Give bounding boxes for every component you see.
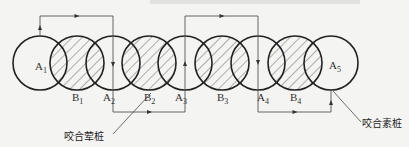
arrow-up-icon bbox=[183, 61, 187, 66]
pile-b3 bbox=[195, 36, 249, 90]
label-reinforced-pile: 咬合荤桩 bbox=[64, 130, 104, 142]
label-a1: A1 bbox=[35, 60, 47, 75]
arrow-up-icon bbox=[38, 25, 42, 30]
arrow-up-icon bbox=[329, 100, 333, 105]
leader-line-plain bbox=[333, 91, 361, 122]
label-b4: B4 bbox=[290, 91, 301, 106]
label-plain-pile: 咬合素桩 bbox=[362, 117, 402, 129]
pile-b1 bbox=[50, 36, 104, 90]
label-b3: B3 bbox=[217, 91, 228, 106]
arrow-right-icon bbox=[75, 14, 80, 18]
arrow-down-icon bbox=[111, 62, 115, 67]
pile-b4 bbox=[268, 36, 322, 90]
arrow-right-icon bbox=[293, 110, 298, 114]
arrow-down-icon bbox=[256, 60, 260, 65]
pile-b2 bbox=[122, 36, 176, 90]
label-a4: A4 bbox=[257, 91, 269, 106]
secondary-piles-group bbox=[50, 36, 322, 90]
arrow-right-icon bbox=[147, 110, 152, 114]
leader-line-reinforced bbox=[113, 93, 151, 134]
arrow-right-icon bbox=[220, 14, 225, 18]
label-a5: A5 bbox=[329, 59, 341, 74]
label-b1: B1 bbox=[72, 91, 83, 106]
secant-pile-diagram: A1A2A3A4A5B1B2B3B4 咬合荤桩 咬合素桩 bbox=[0, 0, 409, 147]
